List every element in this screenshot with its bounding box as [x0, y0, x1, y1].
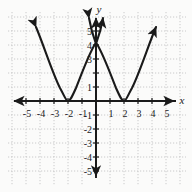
- coordinate-plane-figure: -5 -4 -3 -2 -1 1 2 3 4 5 5 4 3 1 -1 -2 -…: [0, 0, 192, 192]
- outer-right-parabola: [97, 27, 156, 101]
- xtick-1: 1: [109, 108, 114, 119]
- x-axis-label: x: [179, 94, 185, 106]
- ytick--4: -4: [84, 152, 92, 163]
- xtick--4: -4: [37, 108, 45, 119]
- xtick--5: -5: [23, 108, 31, 119]
- y-axis-label: y: [96, 3, 102, 15]
- xtick-5: 5: [165, 108, 170, 119]
- xtick-4: 4: [151, 108, 156, 119]
- xtick--3: -3: [51, 108, 59, 119]
- xtick--2: -2: [65, 108, 73, 119]
- ytick--3: -3: [84, 138, 92, 149]
- ytick--2: -2: [84, 124, 92, 135]
- ytick-3: 3: [87, 54, 92, 65]
- ytick-5: 5: [87, 26, 92, 37]
- xtick-2: 2: [123, 108, 128, 119]
- ytick--5: -5: [84, 166, 92, 177]
- xtick-3: 3: [137, 108, 142, 119]
- ytick-1: 1: [87, 82, 92, 93]
- graph-canvas: -5 -4 -3 -2 -1 1 2 3 4 5 5 4 3 1 -1 -2 -…: [0, 0, 192, 192]
- ytick-4: 4: [87, 40, 92, 51]
- axis-names: y x: [96, 3, 185, 106]
- ytick--1: -1: [84, 110, 92, 121]
